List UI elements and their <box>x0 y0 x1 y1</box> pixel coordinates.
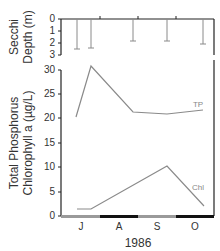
chl-line <box>77 166 204 209</box>
secchi-bars <box>74 19 206 49</box>
main-tick: 10 <box>44 161 56 172</box>
month-band-s <box>138 215 176 218</box>
secchi-tick: 2 <box>49 37 55 48</box>
main-tick: 30 <box>44 64 56 75</box>
month-band-o <box>176 215 214 218</box>
month-label-a: A <box>116 221 123 232</box>
tp-line <box>76 66 203 117</box>
main-tick: 20 <box>44 112 56 123</box>
month-band-j <box>61 215 100 218</box>
month-band-a <box>100 215 138 218</box>
secchi-panel: 0 1 2 3 Secchi Depth (m) <box>7 10 214 63</box>
secchi-tick: 0 <box>49 13 55 24</box>
secchi-ylabel-1: Secchi <box>7 19 21 55</box>
month-label-j: J <box>79 221 84 232</box>
month-label-o: O <box>191 221 199 232</box>
chl-label: Chl <box>192 183 204 192</box>
x-axis-title: 1986 <box>125 236 152 250</box>
main-tick: 25 <box>44 88 56 99</box>
main-ylabel-1: Total Phosphorus <box>7 97 21 190</box>
secchi-tick: 1 <box>49 25 55 36</box>
tp-label: TP <box>193 100 203 109</box>
month-label-s: S <box>154 221 161 232</box>
main-panel: 30 25 20 15 10 5 0 TP Chl J A S O 1986 T… <box>7 60 214 250</box>
main-tick: 5 <box>49 186 55 197</box>
secchi-ylabel-2: Depth (m) <box>21 10 35 63</box>
chart: 0 1 2 3 Secchi Depth (m) 30 25 20 15 10 … <box>0 0 220 251</box>
main-tick: 15 <box>44 137 56 148</box>
secchi-tick: 3 <box>49 49 55 60</box>
main-ylabel-2: Chlorophyll a (µg/L) <box>21 91 35 196</box>
main-tick: 0 <box>49 210 55 221</box>
